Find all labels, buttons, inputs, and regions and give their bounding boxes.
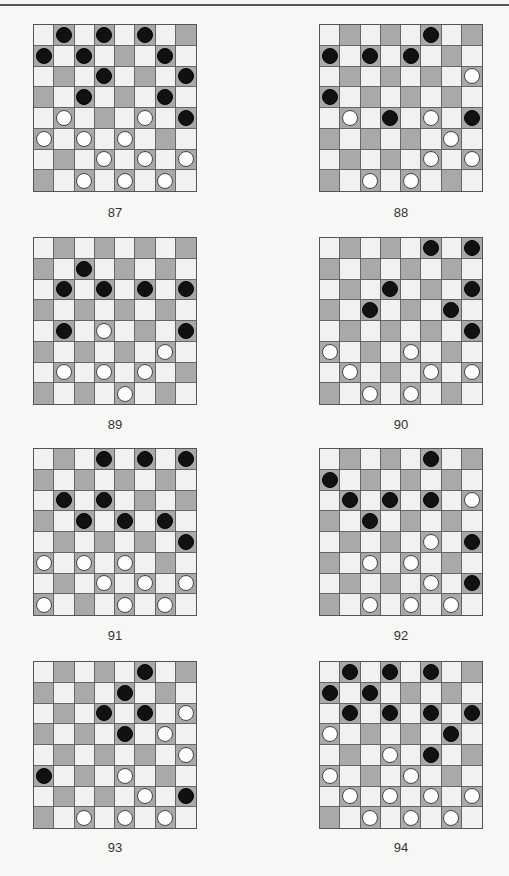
board-square (176, 704, 196, 725)
board-square (320, 470, 340, 491)
board-square (442, 150, 462, 171)
board-square (135, 363, 155, 384)
board-square (361, 300, 381, 321)
board-square (340, 46, 360, 67)
board-square (340, 553, 360, 574)
white-checker-icon (117, 386, 133, 402)
board-square (176, 259, 196, 280)
board-square (95, 449, 115, 470)
white-checker-icon (178, 747, 194, 763)
black-checker-icon (36, 48, 52, 64)
board-square (75, 129, 95, 150)
board-square (176, 724, 196, 745)
black-checker-icon (423, 705, 439, 721)
board-square (54, 150, 74, 171)
black-checker-icon (322, 48, 338, 64)
board-square (442, 67, 462, 88)
board-square (381, 449, 401, 470)
board-square (442, 807, 462, 828)
board-square (34, 280, 54, 301)
board-square (54, 46, 74, 67)
board-square (115, 470, 135, 491)
board-square (156, 553, 176, 574)
board-square (75, 511, 95, 532)
board-square (115, 342, 135, 363)
board-square (75, 259, 95, 280)
board-square (340, 724, 360, 745)
board-square (34, 67, 54, 88)
board-square (361, 321, 381, 342)
board-square (381, 363, 401, 384)
board-square (381, 766, 401, 787)
board-square (135, 342, 155, 363)
board-square (421, 87, 441, 108)
black-checker-icon (362, 302, 378, 318)
board-square (34, 511, 54, 532)
board-square (421, 25, 441, 46)
board-square (381, 807, 401, 828)
board-square (361, 150, 381, 171)
board-square (115, 67, 135, 88)
board-square (95, 574, 115, 595)
board-square (54, 108, 74, 129)
board-square (361, 383, 381, 404)
board-square (340, 807, 360, 828)
board-square (156, 807, 176, 828)
board-square (115, 46, 135, 67)
board-square (54, 766, 74, 787)
board-square (75, 724, 95, 745)
board-square (135, 259, 155, 280)
board-square (421, 470, 441, 491)
diagram-number: 90 (319, 417, 483, 432)
board-square (115, 449, 135, 470)
white-checker-icon (96, 151, 112, 167)
board-square (54, 300, 74, 321)
board-square (95, 766, 115, 787)
board-square (34, 532, 54, 553)
checkerboard (319, 24, 483, 192)
black-checker-icon (178, 68, 194, 84)
black-checker-icon (117, 726, 133, 742)
white-checker-icon (464, 492, 480, 508)
board-square (401, 87, 421, 108)
board-square (156, 67, 176, 88)
board-square (442, 46, 462, 67)
black-checker-icon (157, 89, 173, 105)
board-square (75, 662, 95, 683)
white-checker-icon (178, 151, 194, 167)
board-square (176, 532, 196, 553)
board-square (381, 511, 401, 532)
board-square (340, 67, 360, 88)
board-square (401, 342, 421, 363)
white-checker-icon (76, 555, 92, 571)
board-square (340, 170, 360, 191)
board-square (361, 807, 381, 828)
board-square (421, 67, 441, 88)
board-square (320, 150, 340, 171)
board-square (75, 594, 95, 615)
board-square (176, 683, 196, 704)
board-square (462, 491, 482, 512)
board-square (95, 683, 115, 704)
board-square (156, 87, 176, 108)
checkerboard (319, 237, 483, 405)
board-square (156, 491, 176, 512)
black-checker-icon (342, 664, 358, 680)
white-checker-icon (36, 555, 52, 571)
board-square (361, 683, 381, 704)
white-checker-icon (157, 726, 173, 742)
board-square (442, 449, 462, 470)
board-square (401, 449, 421, 470)
board-square (34, 129, 54, 150)
board-square (115, 383, 135, 404)
board-square (156, 662, 176, 683)
board-square (401, 363, 421, 384)
board-square (95, 300, 115, 321)
board-square (54, 704, 74, 725)
board-square (54, 574, 74, 595)
white-checker-icon (423, 575, 439, 591)
white-checker-icon (157, 597, 173, 613)
board-square (462, 745, 482, 766)
white-checker-icon (76, 810, 92, 826)
black-checker-icon (423, 451, 439, 467)
